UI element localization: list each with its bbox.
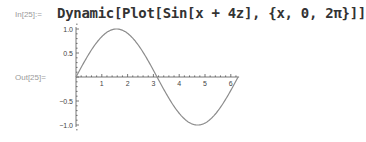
- svg-text:−1.0: −1.0: [59, 122, 73, 129]
- svg-text:1.0: 1.0: [63, 26, 73, 33]
- svg-text:6: 6: [229, 80, 233, 87]
- svg-text:5: 5: [203, 80, 207, 87]
- svg-text:2: 2: [126, 80, 130, 87]
- svg-text:−0.5: −0.5: [59, 98, 73, 105]
- svg-text:0.5: 0.5: [63, 50, 73, 57]
- svg-text:4: 4: [177, 80, 181, 87]
- svg-text:3: 3: [151, 80, 155, 87]
- svg-text:1: 1: [100, 80, 104, 87]
